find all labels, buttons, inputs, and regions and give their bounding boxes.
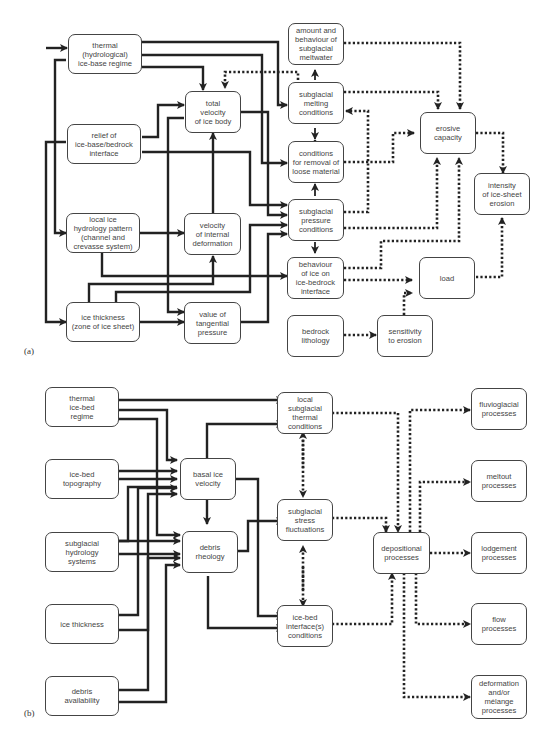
box-behaviour-ice-interface: behaviour of ice on ice-bedrock interfac…: [287, 257, 344, 299]
box-velocity-internal-deformation: velocity of internal deformation: [184, 213, 241, 255]
box-depositional-processes: depositional processes: [373, 532, 430, 574]
box-local-ice-hydrology: local ice hydrology pattern (channel and…: [66, 213, 140, 253]
box-erosive-capacity: erosive capacity: [420, 112, 476, 154]
box-flow-processes: flow processes: [471, 603, 527, 645]
box-basal-ice-velocity: basal ice velocity: [180, 458, 236, 500]
box-subglacial-pressure: subglacial pressure conditions: [288, 199, 344, 241]
box-sensitivity-erosion: sensitivity to erosion: [377, 315, 433, 357]
box-local-subglacial-thermal: local subglacial thermal conditions: [277, 392, 333, 434]
box-load: load: [419, 257, 475, 299]
box-ice-bed-topography: ice-bed topography: [45, 459, 119, 499]
box-ice-bed-interface: ice-bed interface(s) conditions: [277, 605, 333, 647]
box-deformation-melange-processes: deformation and/or mélange processes: [471, 675, 527, 719]
box-removal-loose-material: conditions for removal of loose material: [288, 141, 344, 183]
box-fluvioglacial-processes: fluvioglacial processes: [471, 388, 527, 430]
box-intensity-erosion: intensity of ice-sheet erosion: [474, 173, 530, 215]
box-thermal-ice-bed-regime: thermal ice-bed regime: [45, 387, 119, 427]
box-subglacial-melting: subglacial melting conditions: [288, 82, 344, 124]
box-ice-thickness-zone: ice thickness (zone of ice sheet): [66, 302, 140, 342]
box-meltout-processes: meltout processes: [471, 460, 527, 502]
box-subglacial-stress: subglacial stress fluctuations: [277, 499, 333, 541]
box-debris-rheology: debris rheology: [182, 531, 238, 573]
box-subglacial-hydrology-systems: subglacial hydrology systems: [45, 532, 119, 572]
box-lodgement-processes: lodgement processes: [471, 532, 527, 574]
box-total-velocity: total velocity of ice body: [185, 91, 241, 133]
panel-a-label: (a): [24, 346, 34, 356]
box-relief-ice-base-bedrock: relief of ice-base/bedrock interface: [67, 124, 141, 164]
box-tangential-pressure: value of tangential pressure: [184, 302, 241, 344]
box-thermal-ice-base-regime: thermal (hydrological) ice-base regime: [68, 34, 142, 74]
box-bedrock-lithology: bedrock lithology: [287, 315, 344, 357]
box-subglacial-meltwater: amount and behaviour of subglacial meltw…: [288, 23, 344, 65]
panel-b-label: (b): [24, 708, 35, 718]
box-debris-availability: debris availability: [45, 676, 119, 716]
box-ice-thickness: ice thickness: [45, 604, 119, 644]
